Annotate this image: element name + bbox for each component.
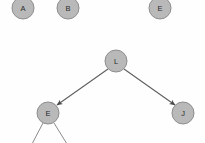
graph-canvas: A B E L E J <box>0 0 205 143</box>
node-b-circle[interactable] <box>57 0 79 19</box>
node-a[interactable]: A <box>12 0 34 19</box>
graph-svg: A B E L E J <box>0 0 205 143</box>
node-l[interactable]: L <box>105 50 127 72</box>
edge-e-to-child-right <box>54 123 67 143</box>
node-a-circle[interactable] <box>12 0 34 19</box>
node-b[interactable]: B <box>57 0 79 19</box>
node-layer: A B E L E J <box>12 0 194 124</box>
node-e-top[interactable]: E <box>149 0 171 19</box>
node-j[interactable]: J <box>172 102 194 124</box>
node-e-top-circle[interactable] <box>149 0 171 19</box>
edge-l-to-e <box>57 69 108 105</box>
node-e-mid-circle[interactable] <box>37 102 59 124</box>
node-e-mid[interactable]: E <box>37 102 59 124</box>
edge-l-to-j <box>124 69 175 105</box>
node-j-circle[interactable] <box>172 102 194 124</box>
node-l-circle[interactable] <box>105 50 127 72</box>
edge-e-to-child-left <box>32 123 43 143</box>
